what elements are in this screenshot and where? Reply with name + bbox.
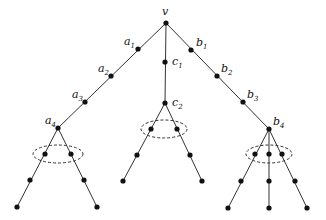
node-c2 [162, 100, 167, 105]
node-a2 [108, 73, 113, 78]
label-b1: b1 [196, 36, 208, 51]
label-a1: a1 [124, 35, 135, 50]
node-a3 [82, 99, 87, 104]
node-b2 [214, 73, 219, 78]
tree-edge [228, 129, 269, 208]
node-bL1 [252, 151, 257, 156]
node-aR3 [94, 204, 99, 209]
tree-diagram: v a1 a2 a3 a4 c1 c2 b1 b2 b3 b4 [0, 0, 326, 220]
node-b3 [240, 99, 245, 104]
a-branch-cluster-ellipse [33, 145, 83, 163]
node-aL2 [27, 177, 32, 182]
node-aL1 [42, 151, 47, 156]
label-b2: b2 [221, 62, 233, 77]
node-bL2 [238, 178, 243, 183]
node-bM2 [266, 178, 271, 183]
label-a2: a2 [98, 62, 110, 77]
node-bM1 [266, 151, 271, 156]
node-b1 [188, 47, 193, 52]
tree-edge [17, 128, 58, 207]
label-b3: b3 [247, 88, 259, 103]
tree-edge [123, 103, 165, 181]
node-aR2 [81, 177, 86, 182]
node-bM3 [266, 205, 271, 210]
node-v [163, 20, 168, 25]
label-b4: b4 [273, 115, 285, 130]
node-cR1 [174, 126, 179, 131]
node-bR1 [279, 151, 284, 156]
node-cR3 [199, 178, 204, 183]
node-cR2 [187, 152, 192, 157]
node-bR3 [304, 205, 309, 210]
node-aR1 [68, 151, 73, 156]
node-b4 [266, 126, 271, 131]
node-a1 [135, 46, 140, 51]
tree-edge [58, 128, 97, 207]
node-aL3 [14, 204, 19, 209]
tree-edge [269, 129, 307, 208]
node-c1 [162, 59, 167, 64]
node-cL2 [134, 152, 139, 157]
node-cL3 [120, 178, 125, 183]
label-c2: c2 [172, 96, 183, 111]
label-c1: c1 [172, 55, 183, 70]
node-bL3 [225, 205, 230, 210]
node-a4 [55, 125, 60, 130]
tree-edges [17, 23, 307, 208]
label-a4: a4 [45, 114, 56, 129]
tree-nodes [14, 20, 309, 210]
label-v: v [162, 5, 169, 18]
tree-edge [165, 103, 202, 181]
label-a3: a3 [72, 88, 84, 103]
node-bR2 [292, 178, 297, 183]
node-cL1 [148, 126, 153, 131]
